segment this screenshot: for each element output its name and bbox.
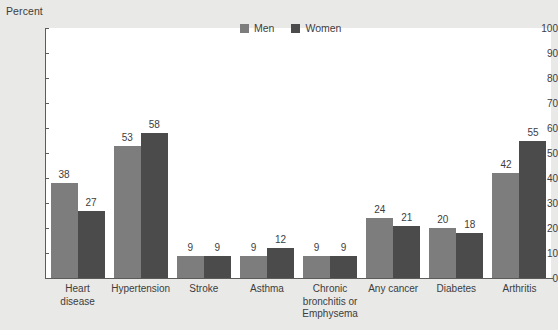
category-label: Hypertension bbox=[109, 283, 172, 321]
bar-value-label: 9 bbox=[314, 242, 320, 253]
bar-men: 9 bbox=[240, 256, 267, 279]
bar-group: 2421 bbox=[362, 28, 425, 278]
bar-value-label: 9 bbox=[341, 242, 347, 253]
category-label: Chronic bronchitis or Emphysema bbox=[299, 283, 362, 321]
bar-women: 21 bbox=[393, 226, 420, 279]
bar-men: 24 bbox=[366, 218, 393, 278]
bar-women: 9 bbox=[330, 256, 357, 279]
bar-pair: 3827 bbox=[46, 28, 109, 278]
bar-value-label: 9 bbox=[215, 242, 221, 253]
bar-group: 2018 bbox=[425, 28, 488, 278]
bar-chart: Percent 1009080706050403020100 Men Women… bbox=[0, 0, 558, 330]
bar-women: 55 bbox=[519, 141, 546, 279]
bar-pair: 2018 bbox=[425, 28, 488, 278]
y-tick-mark bbox=[45, 278, 49, 279]
bar-value-label: 20 bbox=[437, 214, 448, 225]
bar-pair: 4255 bbox=[488, 28, 551, 278]
bar-women: 9 bbox=[204, 256, 231, 279]
bar-pair: 2421 bbox=[362, 28, 425, 278]
bar-group: 5358 bbox=[109, 28, 172, 278]
bar-value-label: 58 bbox=[149, 119, 160, 130]
bar-men: 38 bbox=[51, 183, 78, 278]
category-label: Stroke bbox=[172, 283, 235, 321]
bar-group: 4255 bbox=[488, 28, 551, 278]
bar-value-label: 38 bbox=[59, 169, 70, 180]
bar-men: 9 bbox=[303, 256, 330, 279]
bar-women: 58 bbox=[141, 133, 168, 278]
category-label: Heart disease bbox=[46, 283, 109, 321]
bar-women: 12 bbox=[267, 248, 294, 278]
bar-group: 912 bbox=[235, 28, 298, 278]
bar-value-label: 12 bbox=[275, 234, 286, 245]
bar-pair: 99 bbox=[172, 28, 235, 278]
category-label: Asthma bbox=[235, 283, 298, 321]
category-label: Arthritis bbox=[488, 283, 551, 321]
bar-group: 99 bbox=[299, 28, 362, 278]
bar-value-label: 55 bbox=[527, 127, 538, 138]
bar-value-label: 9 bbox=[251, 242, 257, 253]
bar-men: 20 bbox=[429, 228, 456, 278]
bar-value-label: 27 bbox=[86, 197, 97, 208]
bar-men: 53 bbox=[114, 146, 141, 279]
bar-group: 3827 bbox=[46, 28, 109, 278]
bar-value-label: 42 bbox=[500, 159, 511, 170]
bar-men: 42 bbox=[492, 173, 519, 278]
bar-women: 18 bbox=[456, 233, 483, 278]
bar-pair: 5358 bbox=[109, 28, 172, 278]
category-labels: Heart diseaseHypertensionStrokeAsthmaChr… bbox=[46, 283, 551, 321]
bar-men: 9 bbox=[177, 256, 204, 279]
x-axis-line bbox=[45, 278, 553, 279]
bar-pair: 99 bbox=[299, 28, 362, 278]
bar-group: 99 bbox=[172, 28, 235, 278]
bar-value-label: 9 bbox=[188, 242, 194, 253]
bar-value-label: 21 bbox=[401, 212, 412, 223]
category-label: Diabetes bbox=[425, 283, 488, 321]
bar-pair: 912 bbox=[235, 28, 298, 278]
bar-groups: 382753589991299242120184255 bbox=[46, 28, 551, 278]
bar-women: 27 bbox=[78, 211, 105, 279]
category-label: Any cancer bbox=[362, 283, 425, 321]
bar-value-label: 53 bbox=[122, 132, 133, 143]
bar-value-label: 24 bbox=[374, 204, 385, 215]
y-axis-title: Percent bbox=[6, 5, 43, 17]
bar-value-label: 18 bbox=[464, 219, 475, 230]
